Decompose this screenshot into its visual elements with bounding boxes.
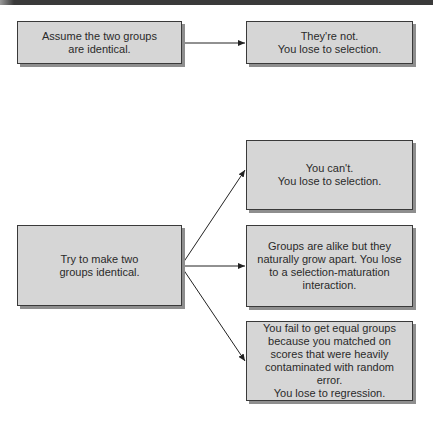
box-grow-apart: Groups are alike but they naturally grow… <box>246 225 413 307</box>
arrow-try-to-regression <box>181 266 245 361</box>
box-regression: You fail to get equal groups because you… <box>246 321 413 401</box>
box-try-make-identical: Try to make two groups identical. <box>17 225 182 306</box>
box-theyre-not: They're not. You lose to selection. <box>246 21 413 64</box>
arrow-try-to-you-cant <box>181 170 245 266</box>
box-you-cant: You can't. You lose to selection. <box>246 140 413 210</box>
box-assume-identical: Assume the two groups are identical. <box>17 21 182 64</box>
